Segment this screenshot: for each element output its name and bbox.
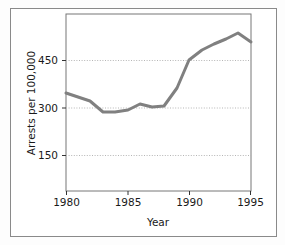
x-tick-label-1985: 1985 [115, 196, 142, 208]
figure-canvas: 450 300 150 1980 1985 1990 1995 Year Arr… [0, 0, 285, 245]
y-axis-title: Arrests per 100,000 [25, 51, 37, 155]
x-tick-label-1980: 1980 [53, 196, 80, 208]
line-chart: 450 300 150 1980 1985 1990 1995 Year Arr… [0, 0, 285, 245]
y-tick-label-150: 150 [38, 149, 58, 161]
x-tick-labels: 1980 1985 1990 1995 [53, 196, 264, 208]
x-tick-marks [67, 191, 251, 195]
x-tick-label-1995: 1995 [237, 196, 264, 208]
y-tick-marks [62, 61, 66, 156]
y-tick-labels: 450 300 150 [38, 54, 58, 161]
y-tick-label-450: 450 [38, 54, 58, 66]
y-tick-label-300: 300 [38, 102, 58, 114]
x-tick-label-1990: 1990 [176, 196, 203, 208]
x-axis-title: Year [146, 216, 170, 228]
